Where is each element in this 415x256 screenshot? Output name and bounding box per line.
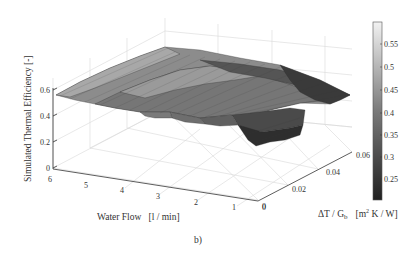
z-tick: 0.6 [40, 86, 50, 95]
delta-t-label-sub: b [344, 213, 348, 221]
colorbar-tick: 0.35 [384, 131, 398, 140]
z-tick: 0.2 [40, 138, 50, 147]
surface-chart: 0.6 0.4 0.2 0 6 5 4 3 2 1 0 0 0.02 0.04 … [0, 0, 415, 256]
x-tick: 4 [120, 186, 124, 195]
z-axis-ticks: 0.6 0.4 0.2 0 [40, 86, 50, 173]
x-tick: 5 [84, 181, 88, 190]
colorbar-tick: 0.45 [384, 86, 398, 95]
y-tick: 0.06 [356, 151, 370, 160]
water-flow-ticks: 6 5 4 3 2 1 0 [48, 175, 266, 212]
colorbar-tick: 0.55 [384, 40, 398, 49]
z-tick: 0 [46, 164, 50, 173]
efficiency-surface [56, 47, 350, 146]
y-tick: 0.02 [292, 185, 306, 194]
y-tick: 0.04 [326, 168, 340, 177]
colorbar-tick: 0.5 [384, 63, 394, 72]
y-tick: 0 [262, 203, 266, 212]
water-flow-axis-label: Water Flow [l / min] [97, 212, 180, 222]
delta-t-label-units: [m [356, 209, 367, 219]
panel-label: b) [194, 235, 202, 246]
delta-t-label-main: ΔT / G [318, 209, 344, 219]
colorbar: 0.55 0.5 0.45 0.4 0.35 0.3 0.25 [373, 22, 398, 200]
z-axis-label: Simulated Thermal Efficiency [-] [23, 55, 33, 182]
colorbar-tick: 0.3 [384, 153, 394, 162]
delta-t-axis-label: ΔT / Gb[m2 K / W] [318, 208, 398, 221]
z-tick: 0.4 [40, 112, 50, 121]
x-tick: 1 [232, 203, 236, 212]
delta-t-label-units-post: K / W] [369, 209, 398, 219]
x-tick: 2 [194, 198, 198, 207]
x-tick: 3 [156, 192, 160, 201]
x-tick: 6 [48, 175, 52, 184]
colorbar-tick: 0.4 [384, 109, 394, 118]
colorbar-tick: 0.25 [384, 175, 398, 184]
